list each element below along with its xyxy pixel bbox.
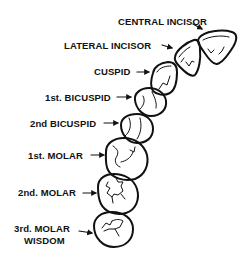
arrow-lateral-incisor (162, 45, 172, 48)
dental-diagram: CENTRAL INCISOR LATERAL INCISOR CUSPID 1… (0, 0, 239, 263)
tooth-third-molar (94, 212, 133, 247)
tooth-central-incisor (198, 31, 236, 64)
teeth-illustration (0, 0, 239, 263)
tooth-lateral-incisor (175, 40, 201, 76)
tooth-first-bicuspid (135, 88, 166, 116)
arrow-central-incisor (193, 24, 202, 29)
arrow-third-molar (79, 231, 92, 233)
tooth-second-molar (98, 174, 138, 214)
